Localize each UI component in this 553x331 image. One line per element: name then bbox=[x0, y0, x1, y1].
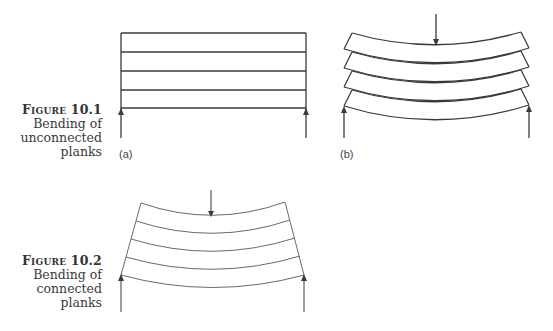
figure-10-2-support-arrows bbox=[118, 274, 307, 312]
panel-b-support-arrows bbox=[341, 105, 532, 138]
panel-a-planks bbox=[121, 33, 306, 138]
figure-10-2-planks bbox=[121, 202, 304, 288]
panel-b-planks bbox=[344, 32, 529, 120]
panel-a-support-arrows bbox=[118, 108, 309, 115]
diagram-canvas bbox=[0, 0, 553, 331]
figure-10-2-load-arrow bbox=[208, 190, 214, 217]
panel-b-load-arrow bbox=[433, 14, 439, 46]
